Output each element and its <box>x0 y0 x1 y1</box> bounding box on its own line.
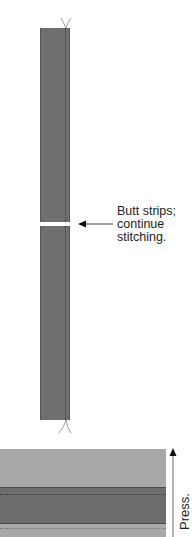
stitch-line <box>0 494 166 495</box>
pressed-binding-panel <box>0 449 166 537</box>
thread-tail-bottom-icon <box>57 419 73 435</box>
panel-top-band <box>0 449 166 487</box>
annotation-line-3: stitching. <box>117 231 176 244</box>
stitch-line <box>65 226 66 420</box>
stitch-line <box>65 28 66 222</box>
annotation-butt-strips: Butt strips; continue stitching. <box>117 205 176 244</box>
panel-middle-band <box>0 487 166 524</box>
panel-bottom-band <box>0 524 166 537</box>
stitch-line <box>0 528 166 529</box>
arrow-left-icon <box>78 219 114 229</box>
fabric-strip-upper <box>40 28 70 222</box>
press-label: Press. <box>177 493 192 530</box>
fabric-strip-lower <box>40 226 70 420</box>
